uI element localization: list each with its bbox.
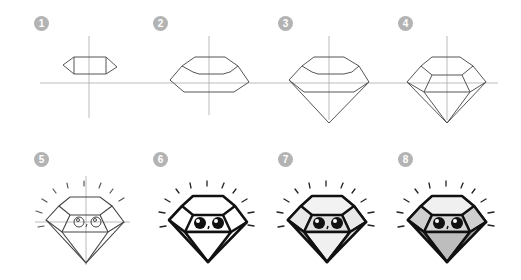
step-7-panel: 7	[260, 140, 390, 280]
step-8-panel: 8	[390, 140, 520, 280]
step-3-drawing	[260, 0, 390, 140]
tutorial-grid: 1 2 3 4	[0, 0, 521, 280]
step-1-drawing	[0, 0, 130, 140]
step-5-drawing	[0, 140, 130, 280]
step-4-panel: 4	[390, 0, 520, 140]
sparkle-lines	[36, 181, 124, 227]
step-8-drawing	[390, 140, 520, 280]
step-5-panel: 5	[0, 140, 130, 280]
step-2-drawing	[130, 0, 260, 140]
step-4-drawing	[390, 0, 520, 140]
step-1-panel: 1	[0, 0, 130, 140]
step-6-drawing	[130, 140, 260, 280]
step-3-panel: 3	[260, 0, 390, 140]
step-6-panel: 6	[130, 140, 260, 280]
step-7-drawing	[260, 140, 390, 280]
hexagon-shape	[63, 57, 117, 74]
step-2-panel: 2	[130, 0, 260, 140]
